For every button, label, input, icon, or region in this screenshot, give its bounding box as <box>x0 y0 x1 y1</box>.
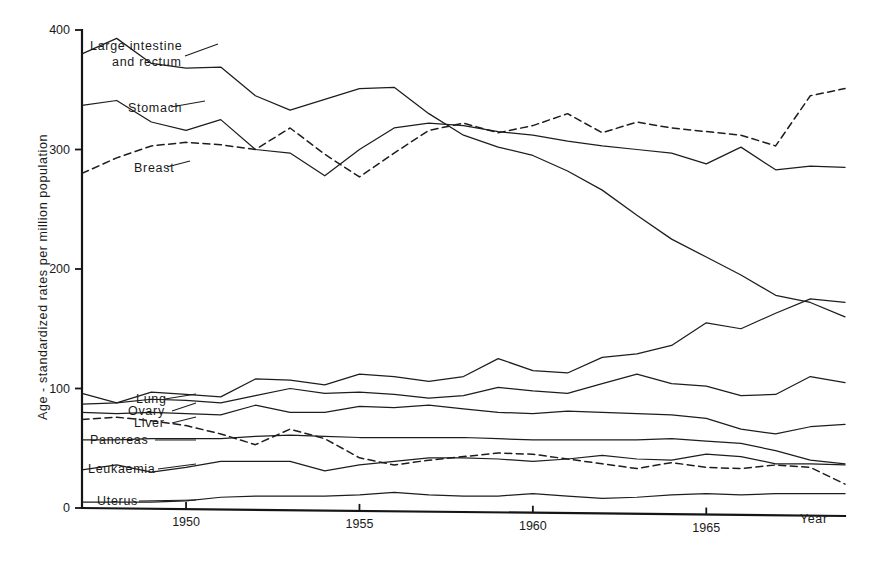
chart-figure: 0100200300400 1950195519601965 Age - sta… <box>0 0 885 563</box>
series-label-uterus: Uterus <box>97 494 138 508</box>
series-label-large-intestine-line2: and rectum <box>112 55 182 69</box>
y-tick-label: 400 <box>49 23 70 37</box>
line-chart: 0100200300400 1950195519601965 Age - sta… <box>0 0 885 563</box>
x-tick-label: 1965 <box>692 521 720 535</box>
x-axis-title: Year <box>800 512 828 526</box>
x-tick-label: 1950 <box>172 515 200 529</box>
y-tick-label: 0 <box>63 501 70 515</box>
y-tick-label: 300 <box>49 143 70 157</box>
x-tick-label: 1955 <box>346 517 374 531</box>
series-label-breast: Breast <box>134 161 174 175</box>
x-tick-label: 1960 <box>519 519 547 533</box>
series-label-large-intestine-line1: Large intestine <box>90 39 183 53</box>
y-tick-label: 200 <box>49 262 70 276</box>
series-label-stomach: Stomach <box>128 101 182 115</box>
y-axis-title: Age - standardized rates per million pop… <box>36 134 50 420</box>
series-label-liver: Liver <box>134 416 165 430</box>
series-label-leukaemia: Leukaemia <box>88 462 155 476</box>
series-label-pancreas: Pancreas <box>90 433 148 447</box>
y-tick-label: 100 <box>49 382 70 396</box>
